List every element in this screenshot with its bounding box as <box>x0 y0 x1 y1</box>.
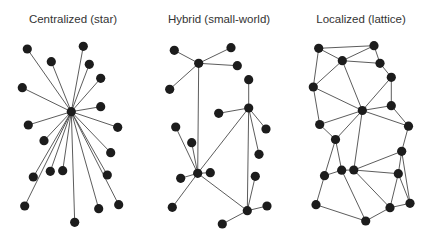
network-node <box>404 122 413 131</box>
network-edge <box>313 61 342 87</box>
network-node <box>405 199 414 208</box>
network-node <box>218 219 227 228</box>
network-edge <box>342 46 374 61</box>
network-node <box>309 82 318 91</box>
network-node <box>214 109 223 118</box>
network-edge <box>336 140 342 171</box>
lattice-network <box>309 41 415 225</box>
network-edge <box>71 112 74 223</box>
network-node <box>375 59 384 68</box>
network-edge <box>71 46 83 111</box>
network-edge <box>313 87 319 125</box>
network-node <box>254 150 263 159</box>
network-edge <box>342 61 362 111</box>
network-node <box>337 166 346 175</box>
network-edge <box>199 63 238 65</box>
network-node <box>261 124 270 133</box>
network-edge <box>71 64 89 111</box>
network-node <box>243 206 252 215</box>
network-node <box>361 216 370 225</box>
small-world-network <box>165 43 272 228</box>
network-node <box>47 57 56 66</box>
network-edge <box>198 63 199 173</box>
network-node <box>311 200 320 209</box>
network-edge <box>22 88 71 112</box>
network-node <box>387 101 396 110</box>
network-node <box>58 166 67 175</box>
network-node <box>67 107 76 116</box>
network-node <box>114 200 123 209</box>
network-edge <box>176 127 198 173</box>
network-node <box>18 83 27 92</box>
network-edge <box>247 176 255 210</box>
network-edge <box>354 170 390 208</box>
network-edge <box>198 108 249 173</box>
network-node <box>338 56 347 65</box>
network-edge <box>198 173 248 210</box>
network-node <box>176 174 185 183</box>
network-node <box>94 204 103 213</box>
network-node <box>226 43 235 52</box>
network-node <box>171 122 180 131</box>
network-edge <box>170 63 199 89</box>
network-node <box>23 44 32 53</box>
network-node <box>387 73 396 82</box>
network-edge <box>247 108 248 211</box>
network-node <box>96 102 105 111</box>
network-node <box>96 74 105 83</box>
network-node <box>103 170 112 179</box>
network-node <box>244 75 253 84</box>
network-node <box>24 120 33 129</box>
network-node <box>369 41 378 50</box>
network-edge <box>342 61 380 64</box>
network-node <box>233 61 242 70</box>
network-node <box>194 59 203 68</box>
network-node <box>20 201 29 210</box>
network-edge <box>390 174 398 208</box>
star-network <box>18 42 124 227</box>
network-node <box>39 136 48 145</box>
network-node <box>70 218 79 227</box>
network-node <box>251 172 260 181</box>
network-node <box>349 165 358 174</box>
network-node <box>397 147 406 156</box>
network-edge <box>313 87 362 111</box>
network-edge <box>199 48 231 64</box>
network-node <box>46 167 55 176</box>
network-edge <box>354 151 402 170</box>
network-diagrams <box>0 0 434 237</box>
network-node <box>320 171 329 180</box>
network-node <box>315 120 324 129</box>
network-node <box>170 46 179 55</box>
network-edge <box>402 151 410 203</box>
network-edge <box>313 48 318 87</box>
network-edge <box>325 140 336 176</box>
network-node <box>331 135 340 144</box>
network-edge <box>398 174 410 204</box>
network-node <box>113 123 122 132</box>
network-edge <box>342 170 366 221</box>
network-node <box>165 85 174 94</box>
network-node <box>385 203 394 212</box>
network-edge <box>354 170 399 174</box>
network-node <box>193 169 202 178</box>
network-node <box>244 103 253 112</box>
network-node <box>187 138 196 147</box>
network-node <box>314 44 323 53</box>
network-node <box>29 172 38 181</box>
network-edge <box>354 111 363 171</box>
network-node <box>168 203 177 212</box>
network-node <box>85 60 94 69</box>
network-node <box>206 168 215 177</box>
network-edge <box>316 205 366 221</box>
network-edge <box>192 143 198 174</box>
network-node <box>394 169 403 178</box>
network-node <box>262 201 271 210</box>
network-node <box>358 106 367 115</box>
network-node <box>106 148 115 157</box>
network-node <box>79 42 88 51</box>
network-edge <box>319 46 374 49</box>
